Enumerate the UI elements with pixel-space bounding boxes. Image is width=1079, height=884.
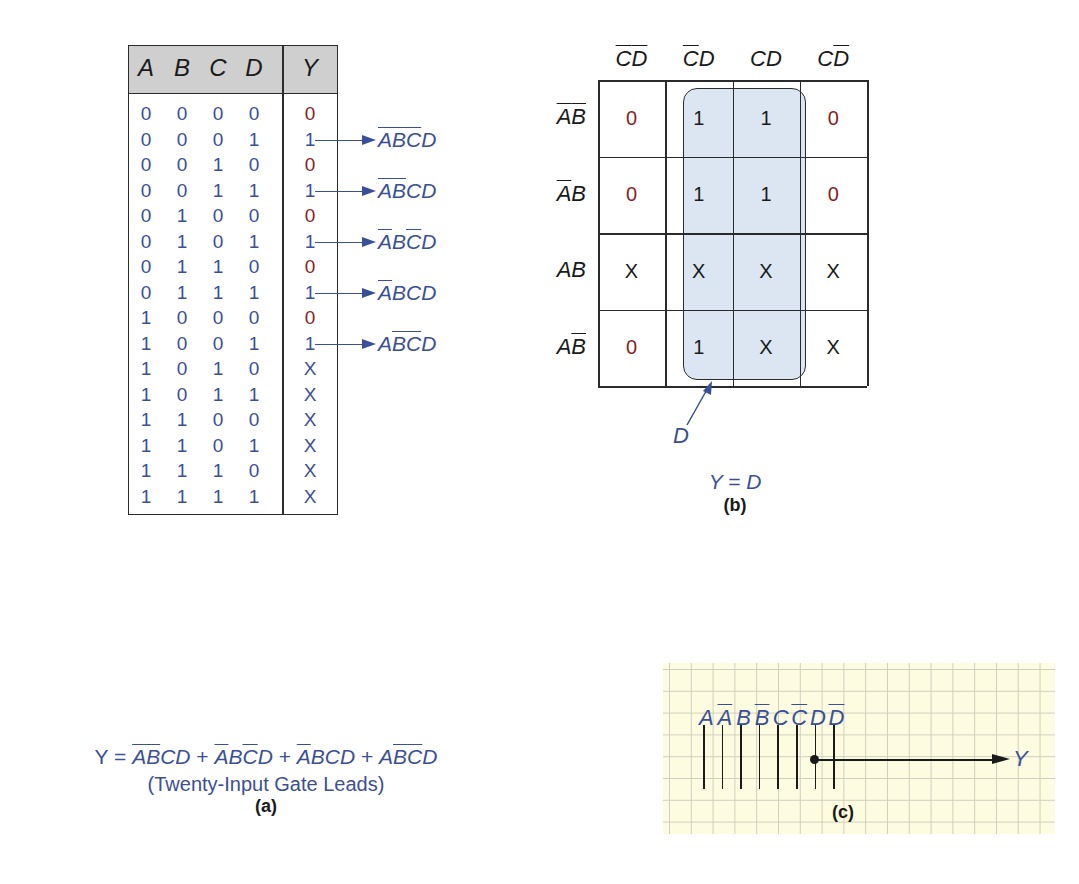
input-cell: 0 <box>169 180 195 202</box>
minterm-arrow-line <box>315 140 365 141</box>
minterm-label: ABCD <box>378 128 436 152</box>
header-a: A <box>133 54 159 82</box>
kmap-cell: X <box>733 233 800 310</box>
input-cell: 0 <box>169 129 195 151</box>
equation-term: ABCD <box>214 745 272 768</box>
input-cell: 0 <box>205 333 231 355</box>
table-row: 01000 <box>129 205 337 231</box>
minterm-label: ABCD <box>378 230 436 254</box>
input-cell: 1 <box>241 231 267 253</box>
output-arrowhead <box>992 754 1010 764</box>
input-cell: 1 <box>205 180 231 202</box>
minterm-label: ABCD <box>378 179 436 203</box>
table-row: 10011 <box>129 333 337 359</box>
kmap-gridline <box>800 80 802 386</box>
kmap-cell: X <box>800 233 867 310</box>
input-cell: 0 <box>205 409 231 431</box>
equation-term: ABCD <box>132 745 190 768</box>
input-cell: 1 <box>133 409 159 431</box>
input-cell: 1 <box>133 358 159 380</box>
table-row: 00011 <box>129 129 337 155</box>
kmap-column-header: CD <box>800 46 867 72</box>
input-cell: 1 <box>169 231 195 253</box>
input-cell: 1 <box>241 129 267 151</box>
input-cell: 1 <box>205 486 231 508</box>
arrowhead-icon <box>362 135 376 145</box>
kmap-gridline <box>598 310 867 312</box>
kmap-column-header: CD <box>598 46 665 72</box>
kmap-gridline <box>867 80 869 386</box>
input-cell: 1 <box>169 282 195 304</box>
input-cell: 0 <box>241 358 267 380</box>
input-cell: 1 <box>205 256 231 278</box>
simplified-result: Y = D <box>600 470 870 494</box>
input-cell: 1 <box>133 333 159 355</box>
input-cell: 0 <box>241 205 267 227</box>
input-cell: 1 <box>133 384 159 406</box>
figure-label-c: (c) <box>832 802 854 823</box>
equation-term: ABCD <box>297 745 355 768</box>
header-c: C <box>205 54 231 82</box>
header-y: Y <box>297 54 323 82</box>
table-row: 00100 <box>129 154 337 180</box>
kmap-cell: X <box>800 310 867 387</box>
input-cell: 0 <box>169 358 195 380</box>
equation-lhs: Y = <box>95 745 127 768</box>
input-label: D <box>809 705 828 731</box>
input-cell: 0 <box>205 435 231 457</box>
gate-input-labels: AABBCCDD <box>697 705 846 731</box>
input-cell: 0 <box>133 231 159 253</box>
output-cell: X <box>297 409 323 431</box>
input-cell: 0 <box>169 154 195 176</box>
arrowhead-icon <box>362 237 376 247</box>
table-row: 1110X <box>129 460 337 486</box>
input-cell: 1 <box>133 486 159 508</box>
truth-table-header: A B C D Y <box>129 46 337 94</box>
kmap-gridline <box>733 80 735 386</box>
input-cell: 0 <box>169 333 195 355</box>
minterm-arrow-line <box>315 344 365 345</box>
input-cell: 0 <box>169 384 195 406</box>
input-label: D <box>827 705 846 731</box>
input-cell: 1 <box>169 256 195 278</box>
input-lead <box>740 725 742 789</box>
input-label: B <box>753 705 772 731</box>
input-label: C <box>790 705 809 731</box>
table-row: 01111 <box>129 282 337 308</box>
input-cell: 1 <box>241 282 267 304</box>
output-cell: X <box>297 486 323 508</box>
output-cell: X <box>297 384 323 406</box>
input-label: A <box>697 705 716 731</box>
input-cell: 0 <box>133 205 159 227</box>
input-cell: 0 <box>133 129 159 151</box>
input-cell: 1 <box>241 435 267 457</box>
kmap-cell: X <box>733 310 800 387</box>
input-cell: 1 <box>205 154 231 176</box>
input-label: B <box>734 705 753 731</box>
input-cell: 0 <box>133 103 159 125</box>
kmap-cell: X <box>598 233 665 310</box>
output-cell: 0 <box>297 256 323 278</box>
input-cell: 0 <box>205 205 231 227</box>
input-cell: 1 <box>133 460 159 482</box>
minterm-arrow-line <box>315 191 365 192</box>
output-cell: 0 <box>297 307 323 329</box>
minterm-arrow-line <box>315 293 365 294</box>
table-row: 1010X <box>129 358 337 384</box>
kmap-cell: 0 <box>598 310 665 387</box>
input-lead <box>722 725 724 789</box>
input-cell: 0 <box>169 307 195 329</box>
input-cell: 1 <box>205 282 231 304</box>
input-cell: 0 <box>241 409 267 431</box>
kmap-cell: 0 <box>598 157 665 234</box>
output-cell: X <box>297 435 323 457</box>
output-line <box>815 759 995 761</box>
kmap-column-header: CD <box>665 46 732 72</box>
input-cell: 1 <box>169 460 195 482</box>
input-cell: 1 <box>205 384 231 406</box>
input-cell: 1 <box>241 333 267 355</box>
table-row: 10000 <box>129 307 337 333</box>
equation-caption: (Twenty-Input Gate Leads) <box>0 773 532 796</box>
input-label: A <box>716 705 735 731</box>
arrowhead-icon <box>362 186 376 196</box>
